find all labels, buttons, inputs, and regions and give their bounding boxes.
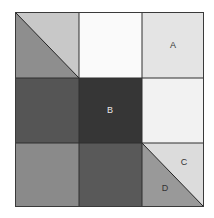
label-d: D [162, 183, 169, 193]
label-b: B [107, 105, 113, 115]
cell-2-0 [16, 143, 79, 206]
quilt-grid: A B C D [15, 12, 204, 207]
label-c: C [181, 157, 188, 167]
cell-0-1 [79, 13, 142, 78]
cell-2-1 [79, 143, 142, 206]
cell-1-0 [16, 78, 79, 143]
label-a: A [170, 40, 176, 50]
cell-1-2 [142, 78, 203, 143]
